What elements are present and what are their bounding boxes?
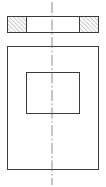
right-hatch-block xyxy=(79,16,98,32)
left-hatch-block xyxy=(7,16,26,32)
inner-opening-outline xyxy=(26,72,79,113)
technical-drawing-canvas xyxy=(0,0,106,187)
section-view xyxy=(7,16,98,32)
plan-view xyxy=(7,46,98,169)
outer-plate-outline xyxy=(7,46,98,169)
drawing-svg xyxy=(0,0,106,187)
